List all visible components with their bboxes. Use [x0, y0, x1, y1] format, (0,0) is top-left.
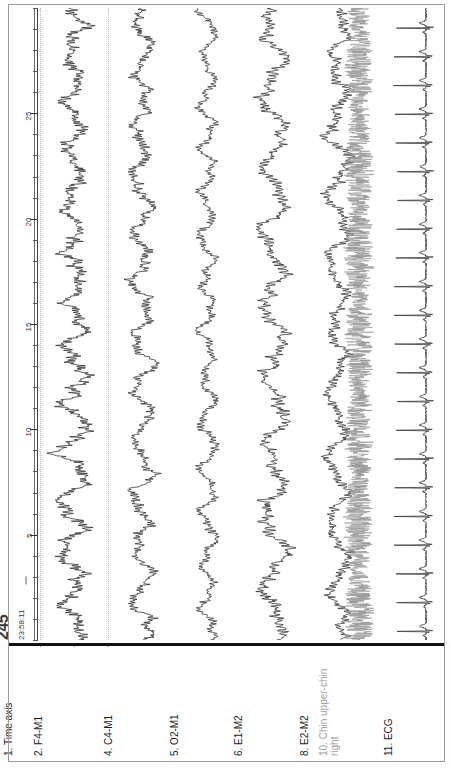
channel-trace-5-o2-m1[interactable]	[178, 8, 238, 640]
trace-svg	[178, 8, 238, 640]
channel-trace-11-ecg[interactable]	[390, 8, 448, 640]
trace-svg	[42, 8, 106, 640]
time-axis-minor-tick	[33, 198, 38, 199]
time-axis-tick-label: 5	[25, 533, 34, 537]
time-axis-minor-tick	[33, 493, 38, 494]
channel-label-e1-m2[interactable]: 6. E1-M2	[233, 715, 244, 756]
time-axis-minor-tick	[33, 92, 38, 93]
time-axis-minor-tick	[33, 71, 38, 72]
time-axis-minor-tick	[33, 155, 38, 156]
channel-label-e2-m2[interactable]: 8. E2-M2	[299, 715, 310, 756]
time-axis-minor-tick	[33, 640, 38, 641]
time-axis-minor-tick	[33, 134, 38, 135]
time-axis-tick-label: 20	[25, 217, 34, 226]
channel-trace-10-chin-upper-chin-right[interactable]	[338, 8, 380, 640]
channel-label-strip: 1. Time axis2. F4-M14. C4-M15. O2-M16. E…	[8, 647, 445, 762]
time-axis-minor-tick	[33, 345, 38, 346]
epoch-timestamp: 245 23:58:11	[10, 576, 40, 640]
time-axis-minor-tick	[33, 8, 38, 9]
channel-trace-4-c4-m1[interactable]	[112, 8, 172, 640]
clock-time: 23:58:11	[17, 609, 26, 640]
channel-label-ecg[interactable]: 11. ECG	[383, 718, 394, 756]
psg-viewer: 510152025 245 23:58:11 -37.5037.5 1. Tim…	[0, 0, 451, 768]
time-axis-tick-label: 25	[25, 112, 34, 121]
time-axis-minor-tick	[33, 29, 38, 30]
trace-svg	[338, 8, 380, 640]
stamp-dash-icon	[26, 577, 27, 585]
time-axis-minor-tick	[33, 50, 38, 51]
trace-svg	[242, 8, 306, 640]
time-axis-minor-tick	[33, 556, 38, 557]
time-axis-minor-tick	[33, 514, 38, 515]
time-axis-minor-tick	[33, 261, 38, 262]
time-axis-minor-tick	[33, 408, 38, 409]
trace-svg	[390, 8, 448, 640]
trace-plot-panel[interactable]: 510152025 245 23:58:11	[0, 0, 451, 645]
time-axis-minor-tick	[33, 240, 38, 241]
time-axis-minor-tick	[33, 282, 38, 283]
time-axis-minor-tick	[33, 366, 38, 367]
time-axis-minor-tick	[33, 303, 38, 304]
channel-guide-line	[40, 8, 41, 640]
epoch-number: 245	[0, 615, 12, 640]
channel-trace-6-e1-m2[interactable]	[242, 8, 306, 640]
channel-label-time-axis[interactable]: 1. Time axis	[3, 703, 14, 756]
channel-label-c4-m1[interactable]: 4. C4-M1	[103, 715, 114, 756]
time-axis-minor-tick	[33, 471, 38, 472]
channel-label-o2-m1[interactable]: 5. O2-M1	[169, 714, 180, 756]
trace-svg	[112, 8, 172, 640]
time-axis-tick-label: 10	[25, 428, 34, 437]
time-axis-tick-label: 15	[25, 323, 34, 332]
time-axis: 510152025	[12, 8, 38, 640]
channel-guide-line	[108, 8, 109, 640]
time-axis-minor-tick	[33, 450, 38, 451]
time-axis-minor-tick	[33, 177, 38, 178]
channel-trace-2-f4-m1[interactable]	[42, 8, 106, 640]
channel-label-chin-upper-chin-right[interactable]: 10. Chin upper-chin right	[318, 652, 340, 756]
time-axis-minor-tick	[33, 387, 38, 388]
channel-label-f4-m1[interactable]: 2. F4-M1	[33, 716, 44, 756]
